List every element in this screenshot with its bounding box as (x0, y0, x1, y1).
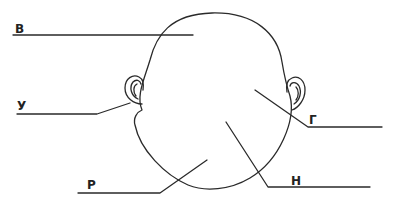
label-u: У (17, 100, 26, 112)
label-g: Г (309, 114, 317, 126)
head-contour (134, 13, 291, 189)
head-diagram: В У Р Г Н (0, 0, 393, 206)
leader-line-r (78, 160, 207, 193)
label-r: Р (87, 179, 96, 191)
label-v: В (15, 23, 24, 35)
left-ear-fold (134, 84, 137, 96)
head-outline-drawing (0, 0, 393, 206)
leader-line-g (255, 90, 382, 127)
label-n: Н (291, 175, 301, 187)
right-ear-fold (296, 87, 298, 100)
leader-line-u (17, 103, 130, 114)
